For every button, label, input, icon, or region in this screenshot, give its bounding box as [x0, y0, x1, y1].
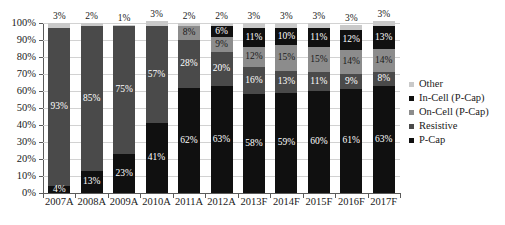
- segment-value-label: 11%: [310, 33, 327, 43]
- bar-2014F: 3%10%15%13%59%: [275, 23, 297, 193]
- segment-value-label: 2%: [183, 12, 196, 22]
- bar-segment-resistive: 85%: [81, 26, 103, 171]
- segment-value-label: 12%: [245, 52, 262, 62]
- y-axis-label: 50%: [17, 103, 43, 114]
- x-axis-label-2014F: 2014F: [270, 197, 302, 208]
- bar-segment-in-cell-p-cap: 6%: [211, 26, 233, 36]
- bar-segment-resistive: 16%: [243, 67, 265, 94]
- legend-item-resistive: Resistive: [409, 120, 489, 132]
- segment-value-label: 16%: [245, 76, 262, 86]
- segment-value-label: 15%: [278, 53, 295, 63]
- segment-value-label: 57%: [148, 70, 165, 80]
- y-axis-label: 10%: [17, 171, 43, 182]
- segment-value-label: 61%: [343, 136, 360, 146]
- bar-segment-p-cap: 62%: [178, 88, 200, 193]
- segment-value-label: 8%: [183, 28, 196, 38]
- x-axis-label-2017F: 2017F: [368, 197, 400, 208]
- segment-value-label: 13%: [278, 77, 295, 87]
- bar-segment-resistive: 9%: [340, 74, 362, 89]
- bar-segment-on-cell-p-cap: 14%: [373, 49, 395, 73]
- segment-value-label: 2%: [85, 12, 98, 22]
- legend-item-other: Other: [409, 78, 489, 90]
- bar-2016F: 3%12%14%9%61%: [340, 25, 362, 193]
- legend-swatch-icon: [409, 82, 414, 87]
- bar-segment-resistive: 93%: [48, 28, 70, 186]
- segment-value-label: 14%: [375, 56, 392, 66]
- bar-2012A: 2%6%9%20%63%: [211, 23, 233, 193]
- x-axis-label-2007A: 2007A: [43, 197, 75, 208]
- bar-segment-resistive: 57%: [146, 26, 168, 123]
- y-axis-label: 60%: [17, 86, 43, 97]
- segment-value-label: 3%: [345, 14, 358, 24]
- legend-label: Resistive: [419, 121, 458, 132]
- bar-2007A: 3%93%4%: [48, 23, 70, 193]
- bar-segment-resistive: 28%: [178, 40, 200, 88]
- bar-2015F: 3%11%15%11%60%: [308, 23, 330, 193]
- segment-value-label: 3%: [313, 12, 326, 22]
- segment-value-label: 9%: [345, 77, 358, 87]
- x-axis-label-2009A: 2009A: [108, 197, 140, 208]
- bar-segment-on-cell-p-cap: 8%: [178, 26, 200, 40]
- segment-value-label: 75%: [115, 85, 132, 95]
- segment-value-label: 13%: [375, 33, 392, 43]
- x-axis-label-2015F: 2015F: [303, 197, 335, 208]
- y-axis-label: 100%: [12, 18, 44, 29]
- segment-value-label: 3%: [377, 10, 390, 20]
- segment-value-label: 4%: [53, 185, 66, 195]
- x-axis-line: [43, 193, 401, 194]
- legend-item-on-cell-p-cap: On-Cell (P-Cap): [409, 106, 489, 118]
- bar-2011A: 2%8%28%62%: [178, 23, 200, 193]
- segment-value-label: 85%: [83, 94, 100, 104]
- bar-segment-on-cell-p-cap: 9%: [211, 37, 233, 52]
- segment-value-label: 11%: [245, 33, 262, 43]
- bar-segment-on-cell-p-cap: 15%: [275, 45, 297, 71]
- bar-segment-on-cell-p-cap: 12%: [243, 47, 265, 67]
- x-axis-tick: [400, 194, 401, 198]
- segment-value-label: 12%: [343, 35, 360, 45]
- bar-segment-in-cell-p-cap: 10%: [275, 28, 297, 45]
- x-axis-label-2011A: 2011A: [173, 197, 205, 208]
- bar-2013F: 3%11%12%16%58%: [243, 23, 265, 193]
- bar-segment-p-cap: 41%: [146, 123, 168, 193]
- y-axis-label: 70%: [17, 69, 43, 80]
- bar-segment-in-cell-p-cap: 11%: [308, 28, 330, 47]
- segment-value-label: 9%: [215, 40, 228, 50]
- segment-value-label: 23%: [115, 169, 132, 179]
- segment-value-label: 3%: [280, 12, 293, 22]
- bar-segment-in-cell-p-cap: 13%: [373, 26, 395, 48]
- legend-item-in-cell-p-cap: In-Cell (P-Cap): [409, 92, 489, 104]
- bar-segment-resistive: 13%: [275, 71, 297, 93]
- segment-value-label: 13%: [83, 177, 100, 187]
- segment-value-label: 20%: [213, 64, 230, 74]
- segment-value-label: 59%: [278, 138, 295, 148]
- segment-value-label: 60%: [310, 137, 327, 147]
- bar-segment-p-cap: 60%: [308, 91, 330, 193]
- segment-value-label: 3%: [150, 10, 163, 20]
- x-axis-label-2013F: 2013F: [238, 197, 270, 208]
- bar-segment-p-cap: 58%: [243, 94, 265, 193]
- y-axis-label: 0%: [22, 188, 43, 199]
- chart-legend: OtherIn-Cell (P-Cap)On-Cell (P-Cap)Resis…: [409, 78, 489, 146]
- segment-value-label: 3%: [248, 12, 261, 22]
- legend-label: Other: [419, 79, 443, 90]
- segment-value-label: 63%: [213, 135, 230, 145]
- bar-segment-p-cap: 23%: [113, 154, 135, 193]
- bar-2009A: 1%75%23%: [113, 25, 135, 193]
- segment-value-label: 1%: [118, 14, 131, 24]
- legend-label: In-Cell (P-Cap): [419, 93, 485, 104]
- y-axis-label: 80%: [17, 52, 43, 63]
- legend-swatch-icon: [409, 96, 414, 101]
- bar-segment-p-cap: 4%: [48, 186, 70, 193]
- segment-value-label: 6%: [215, 27, 228, 37]
- bar-segment-in-cell-p-cap: 12%: [340, 30, 362, 50]
- segment-value-label: 11%: [310, 77, 327, 87]
- legend-swatch-icon: [409, 138, 414, 143]
- segment-value-label: 41%: [148, 153, 165, 163]
- legend-swatch-icon: [409, 124, 414, 129]
- bar-segment-on-cell-p-cap: 14%: [340, 50, 362, 74]
- bar-segment-p-cap: 61%: [340, 89, 362, 193]
- x-axis-label-2010A: 2010A: [140, 197, 172, 208]
- x-axis-label-2016F: 2016F: [335, 197, 367, 208]
- x-axis-label-2012A: 2012A: [205, 197, 237, 208]
- segment-value-label: 63%: [375, 135, 392, 145]
